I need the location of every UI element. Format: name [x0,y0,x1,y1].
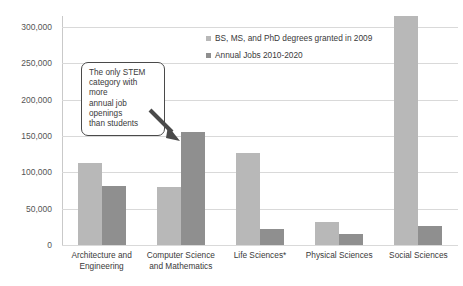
annotation-line-0: The only STEM [89,68,158,78]
bar-chart: 050,000100,000150,000200,000250,000300,0… [0,0,463,286]
bar [260,229,284,245]
legend-item: BS, MS, and PhD degrees granted in 2009 [206,33,372,43]
y-axis-tick-label: 150,000 [0,131,58,141]
bar [339,234,363,245]
legend-label: BS, MS, and PhD degrees granted in 2009 [215,33,372,43]
y-axis-tick-label: 50,000 [0,204,58,214]
x-axis-category-label: Social Sciences [379,250,458,261]
bar [394,16,418,245]
bar [157,187,181,245]
legend-item: Annual Jobs 2010-2020 [206,50,372,60]
bar [78,163,102,245]
annotation-line-3: than students [89,119,158,129]
bar [315,222,339,245]
y-axis-tick-label: 300,000 [0,22,58,32]
bar [418,226,442,245]
y-axis-tick-label: 100,000 [0,167,58,177]
x-axis-category-label: Architecture and Engineering [62,250,141,271]
annotation-callout: The only STEM category with more annual … [81,62,165,136]
legend-label: Annual Jobs 2010-2020 [215,50,303,60]
chart-legend: BS, MS, and PhD degrees granted in 2009A… [206,33,372,67]
y-axis-tick-label: 200,000 [0,95,58,105]
gridline [62,245,458,246]
y-axis-tick-label: 250,000 [0,58,58,68]
bar [181,132,205,245]
annotation-line-1: category with more [89,78,158,98]
legend-swatch-icon [206,53,211,58]
x-axis-category-label: Physical Sciences [300,250,379,261]
bar [236,153,260,245]
x-axis-category-label: Computer Science and Mathematics [141,250,220,271]
annotation-line-2: annual job openings [89,99,158,119]
y-axis-tick-label: 0 [0,240,58,250]
bar [102,186,126,245]
bar-group [379,27,458,245]
x-axis-category-label: Life Sciences* [220,250,299,261]
legend-swatch-icon [206,36,211,41]
